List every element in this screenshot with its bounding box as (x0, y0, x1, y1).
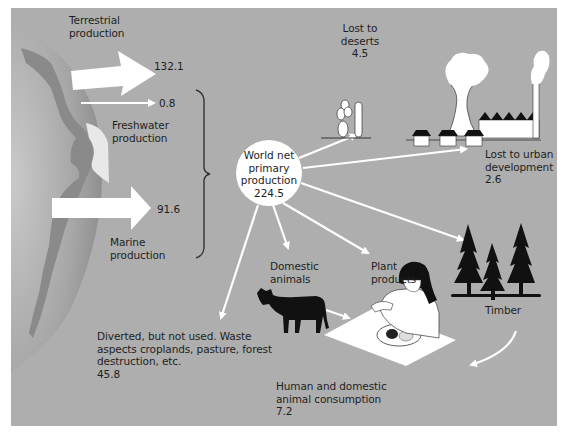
terrestrial-value: 132.1 (154, 60, 184, 73)
world-npp-label: World net primary production 224.5 (221, 149, 317, 199)
deserts-label: Lost to deserts 4.5 (338, 22, 382, 60)
cactus-icon (321, 100, 371, 138)
plant-products-label: Plant products (371, 260, 416, 285)
cow-icon (257, 288, 329, 333)
diagram-artwork (11, 8, 557, 426)
consumption-label: Human and domestic animal consumption 7.… (276, 380, 387, 418)
diagram-panel: Terrestrial production 132.1 0.8 Freshwa… (11, 8, 557, 426)
freshwater-value: 0.8 (159, 97, 175, 110)
domestic-animals-label: Domestic animals (270, 260, 319, 285)
marine-value: 91.6 (157, 203, 180, 216)
freshwater-arrow (81, 99, 156, 107)
tree-icon (451, 223, 541, 300)
freshwater-label: Freshwater production (112, 119, 169, 144)
marine-label: Marine production (110, 236, 165, 261)
terrestrial-label: Terrestrial production (69, 14, 124, 39)
power-plant-icon (445, 51, 549, 138)
brace (196, 90, 210, 258)
diverted-label: Diverted, but not used. Waste aspects cr… (97, 330, 272, 380)
urban-label: Lost to urban development 2.6 (485, 148, 553, 186)
timber-label: Timber (485, 304, 521, 317)
